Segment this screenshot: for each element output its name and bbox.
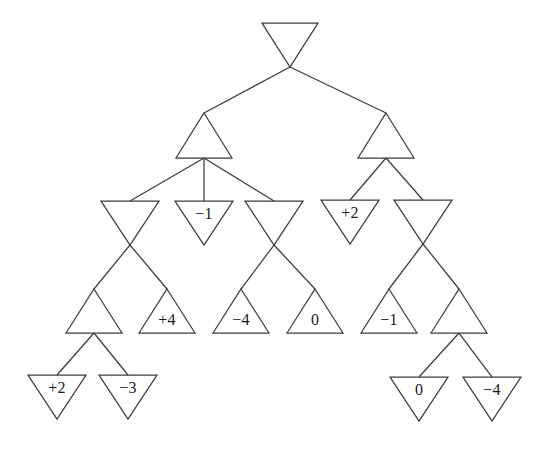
tree-edge	[290, 67, 386, 113]
node-value-label: +4	[158, 311, 175, 328]
node-value-label: +2	[341, 204, 358, 221]
node-value-label: −1	[380, 311, 397, 328]
min-node-triangle	[262, 23, 318, 67]
tree-edge	[130, 158, 204, 201]
min-node-triangle	[394, 200, 452, 244]
tree-edge	[94, 333, 128, 375]
tree-edge	[204, 158, 274, 201]
tree-edge	[350, 158, 386, 200]
tree-edge	[274, 245, 315, 289]
game-tree-figure: −1+2+4−40−1+2−30−4	[0, 0, 552, 449]
labels-layer: −1+2+4−40−1+2−30−4	[48, 204, 500, 398]
max-node-triangle	[176, 113, 232, 158]
tree-edge	[419, 333, 459, 377]
tree-edge	[423, 244, 459, 289]
node-value-label: 0	[311, 311, 319, 328]
min-node-triangle	[245, 201, 303, 245]
tree-edge	[204, 67, 290, 113]
max-node-triangle	[431, 289, 487, 333]
tree-edge	[389, 244, 423, 289]
max-node-triangle	[66, 289, 122, 333]
nodes-layer	[28, 23, 521, 421]
edges-layer	[57, 67, 492, 377]
tree-edge	[57, 333, 94, 375]
node-value-label: −1	[195, 205, 212, 222]
node-value-label: −4	[483, 381, 500, 398]
tree-edge	[241, 245, 274, 289]
tree-edge	[386, 158, 423, 200]
node-value-label: 0	[415, 381, 423, 398]
tree-edge	[94, 245, 130, 289]
max-node-triangle	[358, 113, 414, 158]
tree-edge	[130, 245, 167, 289]
node-value-label: +2	[48, 379, 65, 396]
node-value-label: −3	[119, 379, 136, 396]
node-value-label: −4	[232, 311, 249, 328]
game-tree-canvas: −1+2+4−40−1+2−30−4	[0, 0, 552, 449]
tree-edge	[459, 333, 492, 377]
min-node-triangle	[101, 201, 159, 245]
